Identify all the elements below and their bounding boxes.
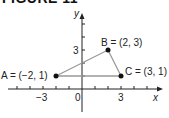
point-c-label: C = (3, 1) [125,66,167,77]
point-a [54,74,59,79]
y-axis-arrow-icon [80,13,85,19]
point-b [106,48,111,53]
point-a-label: A = (−2, 1) [1,70,48,81]
x-axis-label: x [152,92,159,103]
x-tick-label-neg3: −3 [36,92,48,103]
x-tick-label-3: 3 [118,92,124,103]
coordinate-plot: A = (−2, 1) B = (2, 3) C = (3, 1) −3 0 3… [0,0,169,118]
y-axis-label: y [73,8,80,19]
y-tick-label-3: 3 [73,45,79,56]
point-b-label: B = (2, 3) [101,37,142,48]
x-axis-arrow-icon [157,87,163,92]
point-c [119,74,124,79]
triangle-abc [56,50,121,76]
x-tick-label-0: 0 [75,92,81,103]
